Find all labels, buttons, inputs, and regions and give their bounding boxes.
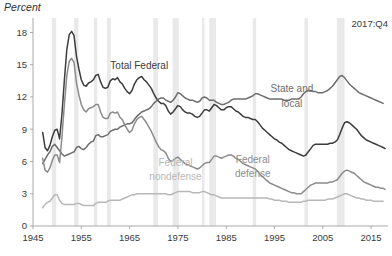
y-tick-label: 6 [22,156,27,167]
footnote-text [0,249,392,256]
x-tick-labels-group: 19451955196519751985199520052015 [22,226,381,243]
recession-band [107,18,111,226]
y-tick-label: 18 [16,27,27,38]
x-tick-label: 2005 [312,232,333,243]
y-tick-label: 15 [16,59,27,70]
series-annotation-label: Federal [159,157,193,168]
plot-area: 0369121518 19451955196519751985199520052… [0,0,392,256]
x-tick-label: 1975 [167,232,188,243]
recession-band [153,18,158,226]
y-tick-label: 0 [22,220,27,231]
series-annotation-label: State and [270,83,313,94]
x-tick-label: 1995 [264,232,285,243]
y-tick-labels-group: 0369121518 [16,27,33,232]
y-tick-label: 9 [22,124,27,135]
recession-band [173,18,179,226]
x-tick-label: 1955 [71,232,92,243]
recession-band [304,18,307,226]
x-tick-label: 1945 [22,232,43,243]
series-annotation-label: nondefense [149,171,202,182]
chart-figure: Percent 2017:Q4 0369121518 1945195519651… [0,0,392,256]
x-tick-label: 2015 [361,232,382,243]
recession-bands-group [52,18,345,226]
recession-band [253,18,256,226]
y-tick-label: 3 [22,188,27,199]
x-tick-label: 1965 [119,232,140,243]
y-tick-label: 12 [16,91,27,102]
series-annotation-label: Total Federal [110,60,168,71]
recession-band [202,18,204,226]
x-tick-label: 1985 [216,232,237,243]
series-annotation-label: Federal [236,154,270,165]
series-annotation-label: local [282,98,303,109]
recession-band [94,18,97,226]
series-annotation-label: defense [235,168,271,179]
